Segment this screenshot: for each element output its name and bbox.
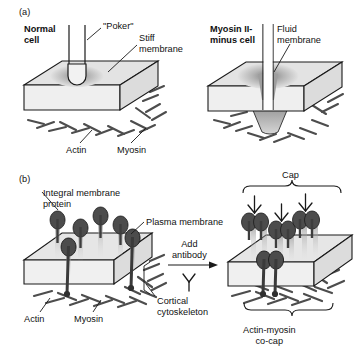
poker-tip-a-left <box>68 64 86 85</box>
panel-b-before <box>24 192 166 312</box>
slab-front-a-right <box>208 86 304 111</box>
poker-body-a-right <box>264 24 273 110</box>
figure-root: (a) Normal cell "Poker" Stiff membrane M… <box>0 0 363 352</box>
antibody-icon <box>183 274 195 291</box>
arrow-head <box>209 262 218 269</box>
membrane-bulge-a-right <box>252 108 288 134</box>
transition-group <box>168 262 218 292</box>
antibody-icon <box>299 194 312 211</box>
panel-a-normal-cell <box>24 25 166 143</box>
slab-front-a-left <box>24 85 120 110</box>
leader-integral-protein <box>42 192 58 210</box>
leader-actin-a <box>80 130 92 143</box>
brace-cocap <box>244 303 333 316</box>
panel-a-myosin-minus-cell <box>208 24 343 142</box>
antibody-icon <box>275 204 288 221</box>
brace-cap <box>243 180 341 193</box>
figure-drawing <box>0 0 363 352</box>
panel-b-after <box>228 180 352 316</box>
leader-actin-b <box>40 298 50 312</box>
leader-poker <box>87 28 101 40</box>
antibody-icon <box>248 196 261 213</box>
